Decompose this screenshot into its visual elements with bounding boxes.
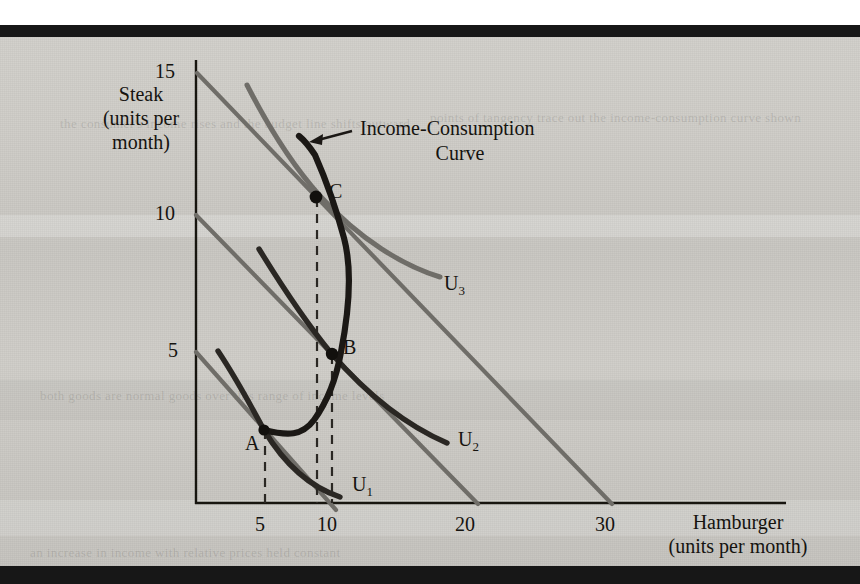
y-tick-label-15: 15 [155, 60, 175, 83]
figure-page: the consumer's income rises and the budg… [0, 0, 860, 584]
x-axis-title-line1: Hamburger [638, 510, 838, 534]
curve-label-u1: U1 [352, 473, 373, 500]
x-tick-label-20: 20 [455, 513, 475, 536]
point-label-a: A [245, 432, 259, 455]
curve-label-u3-name: U [444, 272, 458, 294]
x-tick-label-10: 10 [317, 513, 337, 536]
income-consumption-curve-annotation: Income-Consumption Curve [360, 116, 620, 166]
curve-label-u2-name: U [458, 428, 472, 450]
y-tick-label-10: 10 [155, 202, 175, 225]
point-marker-a [258, 424, 269, 435]
curve-label-u2: U2 [458, 428, 479, 455]
point-label-c: C [329, 180, 342, 203]
x-axis-title: Hamburger (units per month) [638, 510, 838, 558]
x-tick-label-5: 5 [255, 513, 265, 536]
x-tick-label-30: 30 [595, 513, 615, 536]
y-axis-title: Steak (units per month) [76, 82, 206, 154]
curve-label-u3-sub: 3 [458, 283, 465, 298]
x-axis-title-line2: (units per month) [638, 534, 838, 558]
y-axis-title-line3: month) [76, 130, 206, 154]
y-axis-title-line1: Steak [76, 82, 206, 106]
indifference-curve-u1 [218, 351, 340, 497]
y-tick-label-5: 5 [168, 339, 178, 362]
curve-label-u3: U3 [444, 272, 465, 299]
point-marker-c [310, 191, 323, 204]
annotation-leader-line [318, 131, 352, 140]
curve-label-u1-sub: 1 [366, 484, 373, 499]
point-marker-b [326, 348, 338, 360]
annotation-line1: Income-Consumption [360, 116, 620, 141]
annotation-line2: Curve [360, 141, 620, 166]
annotation-arrowhead-icon [309, 134, 323, 145]
y-axis-title-line2: (units per [76, 106, 206, 130]
curve-label-u1-name: U [352, 473, 366, 495]
curve-label-u2-sub: 2 [472, 439, 479, 454]
point-label-b: B [343, 336, 356, 359]
